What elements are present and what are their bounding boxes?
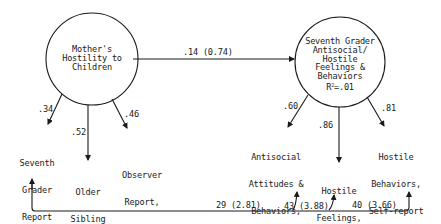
loading-observer-report: .46 [124,110,139,119]
loading-seventh-grader-report: .34 [38,105,53,114]
r-squared: R2=.01 [295,81,385,92]
indicator-line: Antisocial [246,153,306,162]
indicator-line: Report [16,213,58,222]
loading-arrow-antisocial-attitudes [288,95,308,127]
loading-hostile-feelings: .86 [318,121,333,130]
indicator-hostile-feelings: Hostile Feelings, Self-report [311,169,367,224]
error-correlation-1: 29 (2.81) [216,201,261,210]
indicator-observer-report: Observer Report, Task 1,2 [119,153,165,224]
structural-path-coefficient: .14 (0.74) [183,48,233,57]
indicator-line: Sibling [68,215,108,224]
loading-antisocial-attitudes: .60 [283,102,298,111]
error-correlation-2: 43 (3.88) [284,202,329,211]
indicator-line: Hostile [366,153,426,162]
latent-label-seventh-grader: Seventh Grader Antisocial/ Hostile Feeli… [295,37,385,92]
loading-older-sibling-report: .52 [71,128,86,137]
indicator-hostile-behaviors: Hostile Behaviors, Self-report [366,135,426,224]
indicator-seventh-grader-report: Seventh Grader Report [16,141,58,224]
indicator-line: Hostile [311,187,367,196]
indicator-line: Seventh [16,159,58,168]
loading-hostile-behaviors: .81 [381,104,396,113]
indicator-line: Report, [119,198,165,207]
indicator-line: Older [68,188,108,197]
indicator-line: Grader [16,186,58,195]
indicator-line: Feelings, [311,214,367,223]
latent-right-line-5: Behaviors [295,72,385,81]
error-correlation-3: 40 (3.66) [352,201,397,210]
latent-label-mother-hostility: Mother's Hostility to Children [52,45,132,71]
indicator-line: Behaviors, [366,180,426,189]
latent-left-line-3: Children [52,63,132,72]
indicator-line: Observer [119,171,165,180]
indicator-older-sibling-report: Older Sibling Report [68,170,108,224]
indicator-line: Attitudes & [246,180,306,189]
